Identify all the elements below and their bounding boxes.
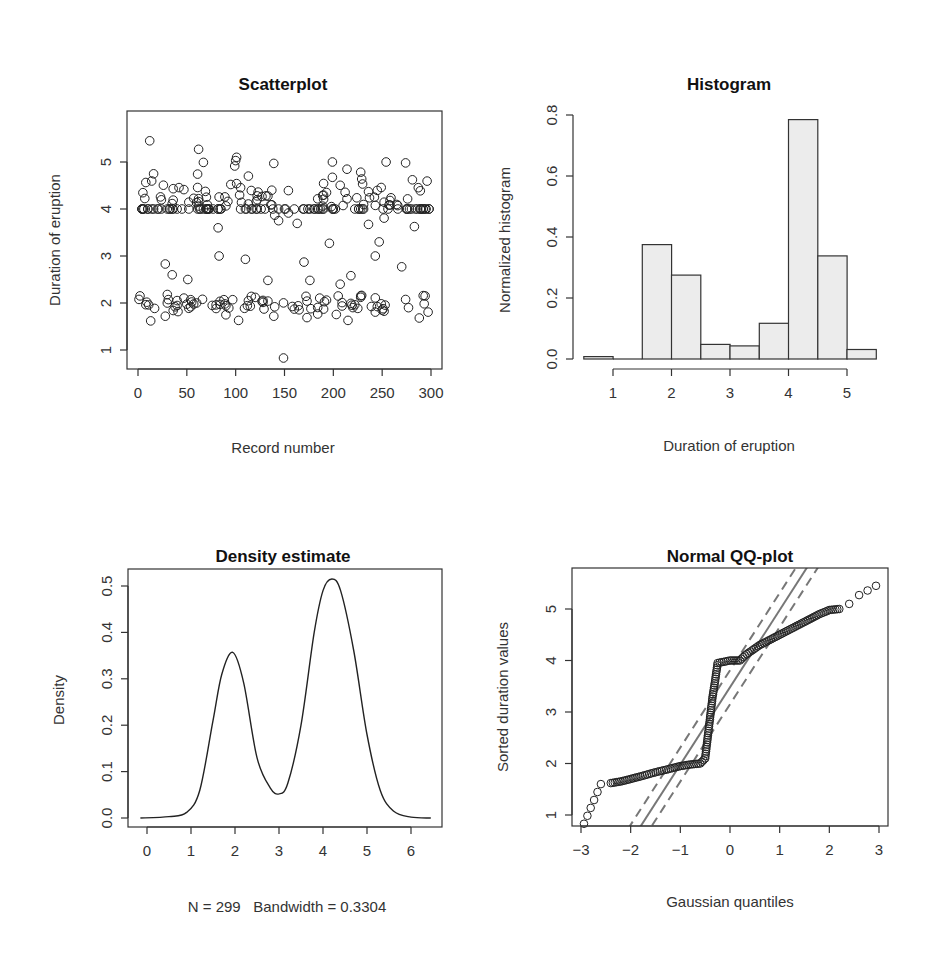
data-point <box>228 295 237 304</box>
y-tick-label: 5 <box>97 158 114 166</box>
y-tick-label: 4 <box>542 656 559 664</box>
x-tick-label: 3 <box>275 842 283 859</box>
histogram-bar <box>730 346 759 359</box>
x-tick-label: 0 <box>726 841 734 858</box>
x-tick-label: −3 <box>572 841 589 858</box>
y-tick-label: 3 <box>97 252 114 260</box>
data-point <box>375 238 384 247</box>
density-title: Density estimate <box>215 547 350 566</box>
scatterplot-ylabel: Duration of eruption <box>46 174 63 306</box>
x-tick-label: 3 <box>726 384 734 401</box>
density-axes: 01234560.00.10.20.30.40.5 <box>98 576 415 859</box>
data-point <box>414 183 423 192</box>
data-point <box>336 280 345 289</box>
data-point <box>371 252 380 261</box>
data-point <box>270 312 279 321</box>
data-point <box>270 159 279 168</box>
data-point <box>365 194 374 203</box>
data-point <box>163 290 172 299</box>
data-point <box>279 354 288 363</box>
data-point <box>401 295 410 304</box>
histogram-xlabel: Duration of eruption <box>663 437 795 454</box>
data-point <box>380 214 389 223</box>
data-point <box>325 239 334 248</box>
y-tick-label: 1 <box>542 811 559 819</box>
data-point <box>397 263 406 272</box>
x-tick-label: 2 <box>231 842 239 859</box>
data-point <box>279 299 288 308</box>
density-frame <box>128 569 442 827</box>
y-tick-label: 1 <box>97 346 114 354</box>
data-point <box>587 804 595 812</box>
data-point <box>401 159 410 168</box>
data-point <box>415 314 424 323</box>
density-panel: Density estimate 01234560.00.10.20.30.40… <box>50 547 442 915</box>
data-point <box>594 788 602 796</box>
y-tick-label: 0.4 <box>543 227 560 248</box>
data-point <box>234 316 243 325</box>
x-tick-label: 50 <box>178 384 195 401</box>
y-tick-label: 0.6 <box>543 166 560 187</box>
data-point <box>339 201 348 210</box>
data-point <box>193 170 202 179</box>
data-point <box>161 312 170 321</box>
data-point <box>410 222 419 231</box>
x-tick-label: 300 <box>418 384 443 401</box>
y-tick-label: 0.3 <box>98 668 115 689</box>
data-point <box>845 600 853 608</box>
x-tick-label: 200 <box>321 384 346 401</box>
x-tick-label: 5 <box>363 842 371 859</box>
data-point <box>161 260 170 269</box>
x-tick-label: 4 <box>319 842 327 859</box>
x-tick-label: 2 <box>825 841 833 858</box>
data-point <box>284 186 293 195</box>
data-point <box>214 224 223 233</box>
data-point <box>244 172 253 181</box>
histogram-bar <box>701 344 730 359</box>
data-point <box>264 276 273 285</box>
figure-canvas: Scatterplot 05010015020025030012345 Reco… <box>0 0 936 960</box>
data-point <box>227 180 236 189</box>
data-point <box>872 582 880 590</box>
data-point <box>855 591 863 599</box>
data-point <box>353 194 362 203</box>
data-point <box>241 255 250 264</box>
y-tick-label: 0.5 <box>98 576 115 597</box>
histogram-bar <box>642 245 671 359</box>
data-point <box>364 220 373 229</box>
histogram-bars <box>584 120 877 359</box>
qqplot-title: Normal QQ-plot <box>667 547 794 566</box>
histogram-bar <box>818 256 847 359</box>
histogram-bar <box>789 120 818 359</box>
data-point <box>184 275 193 284</box>
x-tick-label: 2 <box>667 384 675 401</box>
x-tick-label: 150 <box>272 384 297 401</box>
data-point <box>175 183 184 192</box>
scatterplot-title: Scatterplot <box>239 75 328 94</box>
data-point <box>382 158 391 167</box>
scatterplot-xlabel: Record number <box>231 439 334 456</box>
y-tick-label: 0.2 <box>98 715 115 736</box>
data-point <box>590 796 598 804</box>
qqplot-ylabel: Sorted duration values <box>494 622 511 772</box>
x-tick-label: 1 <box>609 384 617 401</box>
y-tick-label: 0.0 <box>98 808 115 829</box>
data-point <box>180 185 189 194</box>
y-tick-label: 3 <box>542 708 559 716</box>
data-point <box>347 271 356 280</box>
data-point <box>290 205 299 214</box>
data-point <box>215 252 224 261</box>
y-tick-label: 0.4 <box>98 622 115 643</box>
scatterplot-frame <box>127 111 442 369</box>
data-point <box>306 276 315 285</box>
y-tick-label: 2 <box>542 759 559 767</box>
x-tick-label: 1 <box>187 842 195 859</box>
y-tick-label: 0.8 <box>543 105 560 126</box>
data-point <box>343 165 352 174</box>
x-tick-label: −1 <box>672 841 689 858</box>
data-point <box>156 193 165 202</box>
data-point <box>319 179 328 188</box>
data-point <box>145 137 154 146</box>
density-curve <box>140 579 430 818</box>
data-point <box>364 187 373 196</box>
